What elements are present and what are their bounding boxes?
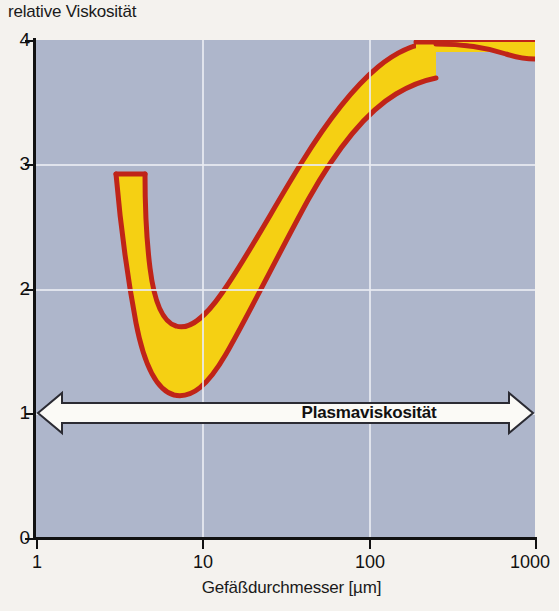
x-axis-title: Gefäßdurchmesser [µm] (0, 578, 559, 598)
viscosity-band-area (116, 42, 436, 396)
gridline-x-100 (369, 40, 371, 538)
plot-area: Plasmaviskosität (36, 40, 535, 538)
x-tick-label-10: 10 (193, 552, 213, 573)
x-tick-label-100: 100 (355, 552, 385, 573)
x-axis-line (33, 537, 537, 540)
x-tickmark-1 (36, 538, 38, 549)
viscosity-chart-figure: relative Viskosität Plasmaviskositä (0, 0, 559, 611)
y-tick-label-1: 1 (4, 402, 30, 424)
y-tick-label-2: 2 (4, 278, 30, 300)
gridline-y-3 (36, 164, 535, 166)
y-tick-label-0: 0 (4, 527, 30, 549)
double-headed-arrow-shape (38, 393, 533, 433)
gridline-y-2 (36, 289, 535, 291)
x-tickmark-1000 (535, 538, 537, 549)
x-axis-title-text: Gefäßdurchmesser [µm] (202, 578, 381, 598)
y-tick-label-3: 3 (4, 153, 30, 175)
gridline-x-10 (202, 40, 204, 538)
y-tick-label-4: 4 (4, 29, 30, 51)
plasma-viscosity-arrow (36, 385, 535, 441)
y-tick-labels: 4 3 2 1 0 (0, 0, 30, 611)
x-tickmark-100 (369, 538, 371, 549)
x-tickmark-10 (202, 538, 204, 549)
x-tick-label-1: 1 (32, 552, 42, 573)
x-tick-label-1000: 1000 (510, 552, 550, 573)
plasma-viscosity-label: Plasmaviskosität (302, 403, 437, 423)
